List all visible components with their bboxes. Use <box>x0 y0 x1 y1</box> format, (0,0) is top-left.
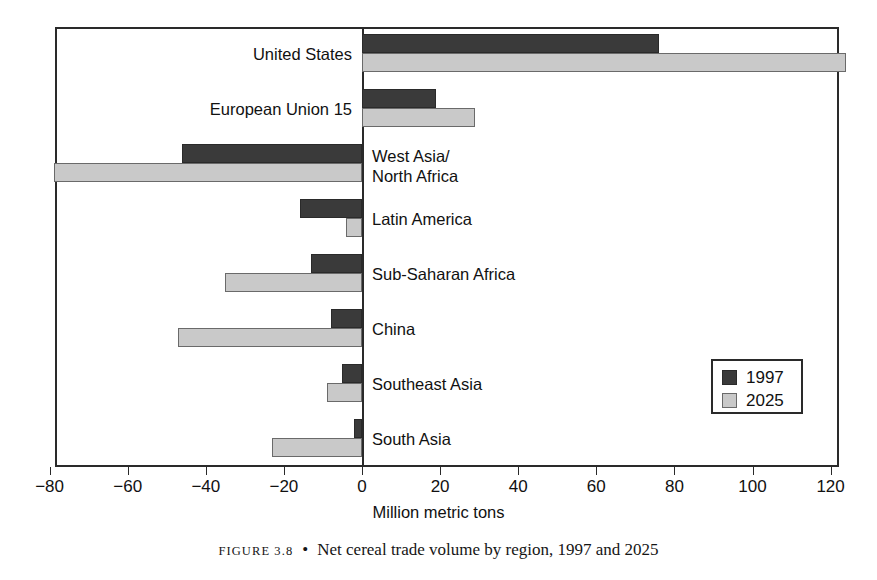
x-tick-label-3: −20 <box>254 477 314 497</box>
x-tick-label-2: −40 <box>176 477 236 497</box>
x-tick-10 <box>831 467 832 475</box>
x-tick-9 <box>753 467 754 475</box>
legend-item-2025[interactable]: 2025 <box>722 389 801 412</box>
x-tick-label-5: 20 <box>410 477 470 497</box>
x-tick-1 <box>128 467 129 475</box>
bar-1997-0[interactable] <box>362 34 659 53</box>
x-tick-label-1: −60 <box>98 477 158 497</box>
x-tick-4 <box>362 467 363 475</box>
legend-item-1997[interactable]: 1997 <box>722 366 801 389</box>
bar-2025-2[interactable] <box>54 163 362 182</box>
bar-2025-7[interactable] <box>272 438 362 457</box>
x-tick-label-8: 80 <box>644 477 704 497</box>
figure-caption: FIGURE 3.8•Net cereal trade volume by re… <box>0 540 877 560</box>
x-tick-5 <box>440 467 441 475</box>
category-label-3: Latin America <box>372 209 472 229</box>
bar-1997-6[interactable] <box>342 364 362 383</box>
caption-text: Net cereal trade volume by region, 1997 … <box>317 540 658 559</box>
bar-1997-4[interactable] <box>311 254 362 273</box>
category-label-0: United States <box>253 44 352 64</box>
bar-1997-5[interactable] <box>331 309 362 328</box>
figure-number: FIGURE 3.8 <box>218 544 293 558</box>
x-tick-label-10: 120 <box>801 477 861 497</box>
x-tick-label-4: 0 <box>332 477 392 497</box>
bar-2025-1[interactable] <box>362 108 475 127</box>
x-tick-3 <box>284 467 285 475</box>
x-tick-7 <box>596 467 597 475</box>
x-tick-label-7: 60 <box>566 477 626 497</box>
category-label-7: South Asia <box>372 429 451 449</box>
category-label-1: European Union 15 <box>210 99 352 119</box>
bar-2025-5[interactable] <box>178 328 362 347</box>
x-tick-label-9: 100 <box>723 477 783 497</box>
bar-1997-1[interactable] <box>362 89 436 108</box>
bar-1997-7[interactable] <box>354 419 362 438</box>
x-tick-label-0: −80 <box>20 477 80 497</box>
category-label-4: Sub-Saharan Africa <box>372 264 515 284</box>
x-tick-6 <box>518 467 519 475</box>
bar-2025-3[interactable] <box>346 218 362 237</box>
category-label-5: China <box>372 319 415 339</box>
x-tick-0 <box>50 467 51 475</box>
legend-label-2025: 2025 <box>746 391 784 411</box>
caption-bullet: • <box>293 540 317 559</box>
bar-1997-2[interactable] <box>182 144 362 163</box>
x-axis-title: Million metric tons <box>0 503 877 522</box>
legend-label-1997: 1997 <box>746 368 784 388</box>
category-label-2: West Asia/North Africa <box>372 146 458 186</box>
category-label-6: Southeast Asia <box>372 374 482 394</box>
chart-legend: 1997 2025 <box>711 359 803 414</box>
category-label-line1: West Asia/ <box>372 146 458 166</box>
category-label-line2: North Africa <box>372 166 458 186</box>
x-tick-8 <box>674 467 675 475</box>
legend-swatch-2025-icon <box>722 393 737 408</box>
x-tick-label-6: 40 <box>488 477 548 497</box>
bar-1997-3[interactable] <box>300 199 362 218</box>
legend-swatch-1997-icon <box>722 370 737 385</box>
bar-2025-0[interactable] <box>362 53 846 72</box>
x-tick-2 <box>206 467 207 475</box>
bar-2025-6[interactable] <box>327 383 362 402</box>
bar-2025-4[interactable] <box>225 273 362 292</box>
